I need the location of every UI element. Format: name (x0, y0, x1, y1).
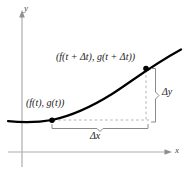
point-marker-lower (49, 117, 55, 123)
x-axis-label: x (175, 146, 179, 155)
x-axis-arrow-icon (165, 149, 173, 155)
y-axis-label: y (24, 4, 28, 13)
parametric-curve-figure: y x (f(t + Δt), g(t + Δt)) (f(t), g(t)) … (0, 0, 187, 177)
delta-y-label: Δy (162, 87, 172, 97)
delta-y-brace (152, 69, 160, 123)
figure-canvas (0, 0, 187, 177)
point-marker-upper (143, 66, 149, 72)
x-axis (8, 149, 172, 155)
y-axis (19, 10, 25, 167)
point-label-upper: (f(t + Δt), g(t + Δt)) (56, 52, 135, 62)
delta-x-label: Δx (90, 131, 100, 141)
point-label-lower: (f(t), g(t)) (26, 98, 64, 108)
